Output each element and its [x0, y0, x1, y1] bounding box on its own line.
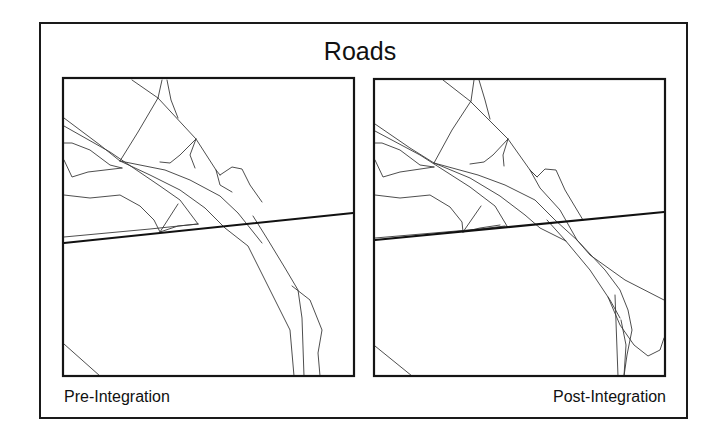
road-line: [479, 80, 490, 119]
road-maps: [0, 0, 720, 446]
road-line: [434, 163, 566, 241]
road-line: [375, 226, 505, 238]
road-line: [434, 163, 632, 376]
major-road-line: [375, 212, 664, 240]
road-line: [64, 118, 120, 161]
road-line: [132, 80, 220, 175]
road-line: [220, 167, 262, 202]
road-line: [253, 216, 304, 376]
road-line: [120, 161, 294, 376]
pre-integration-roads: [64, 80, 353, 376]
major-road-line: [64, 213, 353, 243]
pre-integration-caption: Pre-Integration: [64, 388, 170, 406]
road-line: [160, 204, 178, 232]
road-line: [375, 346, 412, 376]
post-integration-caption: Post-Integration: [553, 388, 666, 406]
road-line: [434, 101, 471, 163]
pre-integration-map-panel: [63, 78, 354, 376]
road-line: [158, 80, 162, 98]
road-line: [375, 160, 434, 177]
road-line: [471, 80, 474, 101]
road-line: [443, 80, 537, 177]
road-line: [160, 139, 196, 163]
post-integration-panel-border: [374, 79, 665, 376]
road-line: [530, 169, 583, 220]
road-line: [120, 98, 158, 161]
road-line: [375, 195, 463, 232]
road-line: [530, 170, 577, 240]
road-line: [470, 139, 508, 164]
road-line: [64, 195, 160, 232]
post-integration-map-panel: [374, 79, 665, 376]
road-line: [292, 286, 322, 376]
road-line: [190, 139, 196, 168]
road-line: [64, 160, 122, 177]
road-line: [64, 344, 100, 376]
post-integration-roads: [375, 80, 664, 376]
road-line: [615, 295, 618, 376]
road-line: [167, 80, 178, 118]
